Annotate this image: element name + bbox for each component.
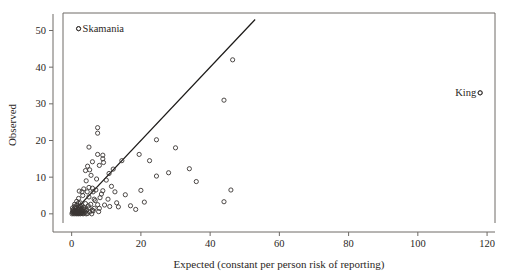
plot-canvas: 02040608010012001020304050 SkamaniaKing … <box>0 0 515 278</box>
x-tick-label: 60 <box>274 238 285 249</box>
x-tick-label: 80 <box>343 238 354 249</box>
x-tick-label: 20 <box>136 238 147 249</box>
x-tick-label: 0 <box>69 238 74 249</box>
point-label: Skamania <box>83 23 125 34</box>
x-tick-label: 120 <box>479 238 495 249</box>
figure-background <box>0 0 515 278</box>
y-tick-label: 30 <box>36 98 47 109</box>
y-tick-label: 50 <box>36 25 47 36</box>
y-tick-label: 10 <box>36 172 47 183</box>
y-tick-label: 0 <box>41 208 46 219</box>
x-axis-title: Expected (constant per person risk of re… <box>174 258 385 271</box>
scatter-plot-figure: 02040608010012001020304050 SkamaniaKing … <box>0 0 515 278</box>
y-tick-label: 40 <box>36 62 47 73</box>
x-tick-label: 100 <box>410 238 426 249</box>
point-annotation: Skamania <box>76 23 124 34</box>
x-tick-label: 40 <box>205 238 216 249</box>
y-axis-title: Observed <box>6 103 18 146</box>
y-tick-label: 20 <box>36 135 47 146</box>
point-label: King <box>455 87 477 98</box>
